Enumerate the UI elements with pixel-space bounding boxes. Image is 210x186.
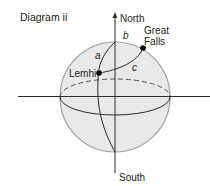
- arc-b-label: b: [123, 30, 129, 41]
- sphere-diagram: Diagram ii North South Lemhi Great Falls…: [0, 0, 210, 186]
- south-label: South: [119, 172, 145, 183]
- diagram-title: Diagram ii: [20, 11, 67, 23]
- arc-a-label: a: [95, 50, 101, 61]
- lemhi-label: Lemhi: [69, 68, 96, 79]
- great-falls-label-line2: Falls: [144, 36, 165, 47]
- point-lemhi: [96, 70, 102, 76]
- great-falls-label-line1: Great: [144, 25, 169, 36]
- arc-c-label: c: [132, 62, 137, 73]
- north-arrow-icon: [113, 12, 118, 18]
- north-label: North: [120, 13, 144, 24]
